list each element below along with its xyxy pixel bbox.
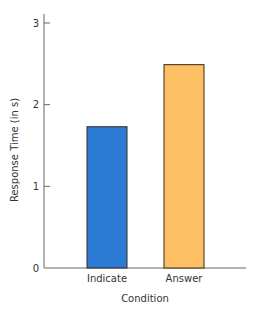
bar-chart: 0123 IndicateAnswer Condition Response T… xyxy=(0,0,259,321)
bar-indicate xyxy=(87,127,127,268)
x-tick-label-indicate: Indicate xyxy=(87,273,127,284)
y-tick-label: 2 xyxy=(33,99,39,110)
y-tick-label: 0 xyxy=(33,263,39,274)
bar-answer xyxy=(164,65,204,268)
y-axis-title: Response Time (in s) xyxy=(9,98,20,202)
bars xyxy=(87,65,204,268)
axes xyxy=(44,14,246,268)
x-tick-labels: IndicateAnswer xyxy=(87,273,203,284)
y-tick-label: 1 xyxy=(33,181,39,192)
x-tick-label-answer: Answer xyxy=(166,273,204,284)
y-tick-label: 3 xyxy=(33,18,39,29)
y-ticks: 0123 xyxy=(33,18,50,274)
x-axis-title: Condition xyxy=(121,293,169,304)
